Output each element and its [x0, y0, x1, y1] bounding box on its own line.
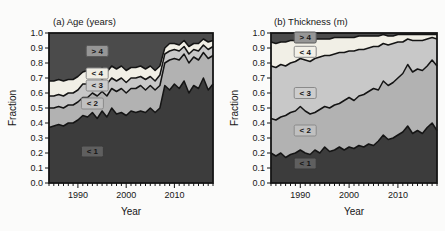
x-tick-label: 1990 [290, 190, 310, 200]
panel-b-yaxis-label: Fraction [229, 90, 240, 126]
area-label: < 1 [87, 147, 99, 156]
area-label: < 3 [92, 81, 104, 90]
y-tick-label: 0.9 [252, 43, 265, 53]
x-tick-label: 1990 [68, 190, 88, 200]
y-tick-label: 1.0 [30, 28, 43, 38]
y-tick-label: 0.3 [252, 133, 265, 143]
figure-canvas: 1990200020100.00.10.20.30.40.50.60.70.80… [0, 0, 445, 231]
x-tick-label: 2000 [339, 190, 359, 200]
y-tick-label: 0.6 [30, 88, 43, 98]
thickness-panel: 1990200020100.00.10.20.30.40.50.60.70.80… [229, 16, 437, 217]
area-label: < 4 [92, 69, 104, 78]
y-tick-label: 0.0 [252, 178, 265, 188]
age-panel: 1990200020100.00.10.20.30.40.50.60.70.80… [7, 16, 213, 217]
y-tick-label: 1.0 [252, 28, 265, 38]
panel-a-title: (a) Age (years) [53, 16, 116, 27]
y-tick-label: 0.6 [252, 88, 265, 98]
y-tick-label: 0.7 [30, 73, 43, 83]
sea-ice-age-thickness-figure: 1990200020100.00.10.20.30.40.50.60.70.80… [0, 0, 445, 231]
y-tick-label: 0.7 [252, 73, 265, 83]
y-tick-label: 0.4 [30, 118, 43, 128]
area-label: > 4 [92, 47, 104, 56]
y-tick-label: 0.3 [30, 133, 43, 143]
area-label: < 1 [300, 159, 312, 168]
y-tick-label: 0.1 [30, 163, 43, 173]
y-tick-label: 0.8 [30, 58, 43, 68]
panel-a-yaxis-label: Fraction [7, 90, 18, 126]
panel-a-xaxis-label: Year [121, 206, 142, 217]
area-label: < 3 [300, 89, 312, 98]
y-tick-label: 0.2 [30, 148, 43, 158]
x-tick-label: 2010 [388, 190, 408, 200]
area-label: < 2 [300, 126, 312, 135]
y-tick-label: 0.9 [30, 43, 43, 53]
panel-b-xaxis-label: Year [344, 206, 365, 217]
x-tick-label: 2010 [164, 190, 184, 200]
area-label: < 4 [300, 48, 312, 57]
x-tick-label: 2000 [116, 190, 136, 200]
area-label: > 4 [300, 33, 312, 42]
area-label: < 2 [87, 99, 99, 108]
y-tick-label: 0.8 [252, 58, 265, 68]
y-tick-label: 0.1 [252, 163, 265, 173]
y-tick-label: 0.0 [30, 178, 43, 188]
y-tick-label: 0.2 [252, 148, 265, 158]
y-tick-label: 0.4 [252, 118, 265, 128]
age-stacked-areas [49, 33, 213, 183]
y-tick-label: 0.5 [252, 103, 265, 113]
y-tick-label: 0.5 [30, 103, 43, 113]
panel-b-title: (b) Thickness (m) [274, 16, 348, 27]
